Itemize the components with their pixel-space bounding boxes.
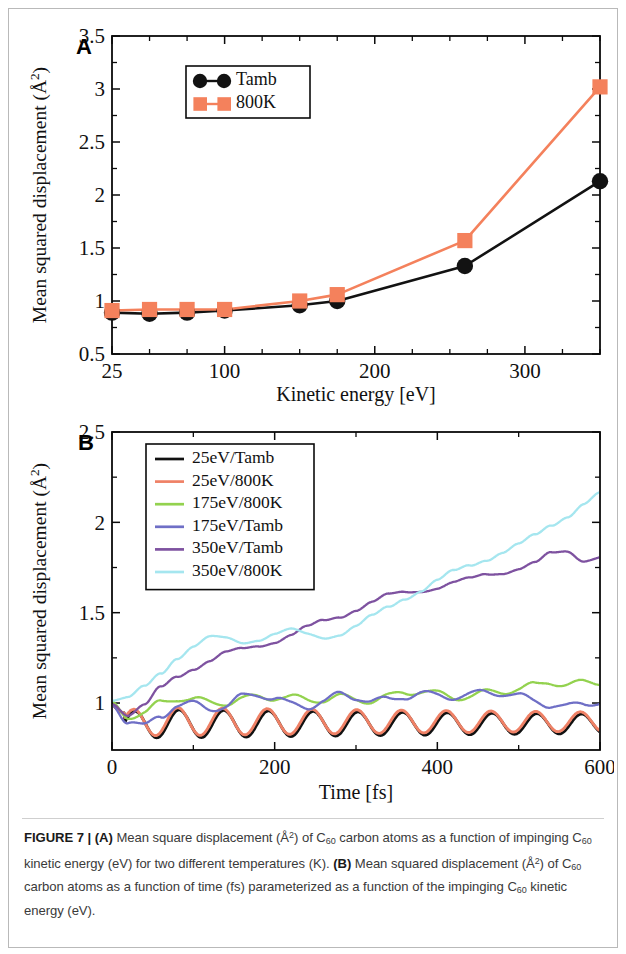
legend-label: 25eV/800K: [192, 470, 274, 490]
panel-letter: A: [76, 34, 92, 59]
figure-page: 251002003000.511.522.533.5AMean squared …: [0, 0, 626, 954]
x-axis-title: Kinetic energy [eV]: [276, 383, 436, 406]
y-tick-label: 0.5: [79, 342, 105, 366]
data-point-marker: [217, 302, 232, 317]
caption-figure-label: FIGURE 7 | (A): [24, 830, 113, 845]
legend-marker: [193, 74, 207, 88]
data-point-marker: [592, 79, 607, 94]
x-tick-label: 0: [107, 755, 118, 779]
legend-label: 25eV/Tamb: [192, 447, 275, 467]
y-tick-label: 2: [95, 183, 106, 207]
caption-sub-c60-4: 60: [517, 885, 527, 895]
data-point-marker: [292, 293, 307, 308]
data-point-marker: [592, 173, 608, 189]
svg-text:Mean squared displacement (Å2): Mean squared displacement (Å2): [27, 463, 52, 719]
y-axis-title: Mean squared displacement (Å2): [27, 463, 52, 719]
y-tick-label: 1: [95, 691, 106, 715]
legend-marker: [217, 97, 231, 111]
panel-a-svg: 251002003000.511.522.533.5AMean squared …: [12, 14, 614, 406]
y-tick-label: 2.5: [79, 130, 105, 154]
x-axis-title: Time [fs]: [319, 781, 393, 803]
caption-bold-b: (B): [333, 856, 351, 871]
x-tick-label: 400: [422, 755, 454, 779]
svg-text:Mean squared displacement (Å2): Mean squared displacement (Å2): [27, 67, 52, 323]
legend-label: 175eV/Tamb: [192, 515, 283, 535]
legend-label: 350eV/Tamb: [192, 537, 283, 557]
y-tick-label: 2: [95, 511, 106, 535]
y-tick-label: 1.5: [79, 236, 105, 260]
y-tick-label: 1: [95, 289, 106, 313]
series-line-25ev-800k: [112, 703, 600, 736]
caption-text-a3: carbon atoms as a function of impinging …: [336, 830, 582, 845]
series-line-tamb: [112, 181, 600, 314]
x-tick-label: 300: [509, 359, 541, 383]
data-point-marker: [457, 258, 473, 274]
caption-sub-c60-1: 60: [326, 836, 336, 846]
panel-b-svg: 020040060011.522.5BMean squared displace…: [12, 410, 614, 810]
caption-text-b2: ) of C: [540, 856, 572, 871]
caption-text-b1: Mean squared displacement (Å: [355, 856, 535, 871]
legend-label: 175eV/800K: [192, 492, 283, 512]
series-line-800k: [112, 87, 600, 311]
panel-a-legend: Tamb800K: [186, 66, 310, 118]
caption-text-a1: Mean square displacement (Å: [116, 830, 289, 845]
data-point-marker: [142, 302, 157, 317]
y-tick-label: 1.5: [79, 601, 105, 625]
data-point-marker: [179, 302, 194, 317]
panel-a-chart: 251002003000.511.522.533.5AMean squared …: [12, 14, 614, 406]
figure-caption: FIGURE 7 | (A) Mean square displacement …: [24, 826, 604, 920]
caption-text-a4: kinetic energy (eV) for two different te…: [24, 856, 330, 871]
legend-label: 350eV/800K: [192, 560, 283, 580]
x-tick-label: 200: [259, 755, 291, 779]
caption-text-b3: carbon atoms as a function of time (fs) …: [24, 879, 517, 894]
caption-divider: [22, 818, 604, 819]
legend-label: 800K: [236, 92, 276, 112]
x-tick-label: 600: [584, 755, 614, 779]
caption-text-a2: ) of C: [294, 830, 326, 845]
x-tick-label: 100: [209, 359, 241, 383]
panel-b-chart: 020040060011.522.5BMean squared displace…: [12, 410, 614, 810]
data-point-marker: [330, 287, 345, 302]
data-point-marker: [104, 303, 119, 318]
x-tick-label: 200: [359, 359, 391, 383]
legend-marker: [193, 97, 207, 111]
legend-marker: [217, 74, 231, 88]
caption-sub-c60-3: 60: [571, 862, 581, 872]
panel-letter: B: [78, 430, 94, 455]
data-point-marker: [457, 233, 472, 248]
y-tick-label: 3: [95, 77, 106, 101]
caption-sub-c60-2: 60: [582, 836, 592, 846]
panel-b-legend: 25eV/Tamb25eV/800K175eV/800K175eV/Tamb35…: [146, 444, 314, 590]
legend-label: Tamb: [236, 69, 277, 89]
y-axis-title: Mean squared displacement (Å2): [27, 67, 52, 323]
